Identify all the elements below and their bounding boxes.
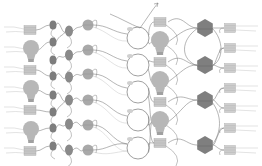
small-oval-node <box>50 108 57 117</box>
circle-knot <box>127 109 133 113</box>
bulb-base <box>157 132 163 135</box>
loop-line <box>51 29 55 38</box>
connector-line <box>36 70 50 76</box>
connector-line <box>149 22 154 35</box>
loop-line <box>51 80 55 89</box>
input-line <box>6 72 24 73</box>
connector-line <box>93 127 127 151</box>
connector-line <box>56 100 66 112</box>
bulb-base <box>157 52 163 55</box>
circle-knot <box>127 137 133 141</box>
connector-line <box>56 144 66 151</box>
mid-oval-node <box>65 72 73 83</box>
connector-line <box>36 146 50 151</box>
right-square-node <box>225 64 236 73</box>
output-line <box>236 110 256 111</box>
connector-line <box>36 25 50 30</box>
loop-line <box>51 99 55 108</box>
square-node <box>24 26 36 35</box>
loop-line <box>166 45 178 65</box>
output-line <box>236 152 256 153</box>
input-line <box>6 32 24 33</box>
connector-line <box>213 88 224 100</box>
mid-oval-node <box>65 119 73 130</box>
connector-line <box>213 48 224 65</box>
output-line <box>236 90 256 91</box>
loop-line <box>220 150 225 155</box>
input-line <box>4 87 25 89</box>
connector-line <box>148 122 152 152</box>
connector-line <box>73 25 83 31</box>
input-line <box>4 67 24 69</box>
connector-line <box>213 65 224 68</box>
connector-line <box>168 65 197 82</box>
small-oval-node <box>50 91 57 100</box>
connector-line <box>93 74 127 88</box>
connector-line <box>93 151 127 154</box>
output-line <box>236 50 256 51</box>
bulb-node <box>151 31 169 55</box>
output-line <box>236 30 256 31</box>
small-oval-node <box>50 38 57 47</box>
loop-line <box>166 85 178 105</box>
input-line <box>4 27 24 29</box>
loop-line <box>166 125 178 145</box>
connector-line <box>56 93 66 101</box>
input-line <box>6 92 25 93</box>
hexagon-node <box>197 136 213 154</box>
output-line <box>236 70 256 71</box>
connector-line <box>213 100 224 108</box>
connector-line <box>73 50 83 55</box>
bulb-node <box>23 121 39 143</box>
loop-line <box>51 46 55 55</box>
connector-line <box>93 102 127 123</box>
loop-line <box>185 28 199 66</box>
right-square-node <box>225 146 236 155</box>
connector-line <box>168 97 197 102</box>
connector-line <box>168 28 197 42</box>
circle-knot <box>127 27 133 31</box>
bulb-node <box>151 71 169 95</box>
mid-oval-node <box>65 50 73 61</box>
circle-knot <box>127 54 133 58</box>
loop-line <box>67 60 72 72</box>
square-node <box>24 66 36 75</box>
diagram-nodes <box>23 18 236 160</box>
mid-oval-node <box>65 145 73 156</box>
loop-line <box>166 146 178 166</box>
small-oval-node <box>50 142 57 151</box>
connector-line <box>149 61 154 62</box>
right-square-node <box>225 24 236 33</box>
network-diagram <box>0 0 262 166</box>
connector-line <box>56 23 66 32</box>
square-node <box>154 139 166 148</box>
connector-line <box>73 148 83 151</box>
right-square-node <box>225 104 236 113</box>
mid-oval-node <box>65 95 73 106</box>
connector-line <box>93 25 127 34</box>
loop-line <box>67 36 72 48</box>
bulb-glass <box>23 80 39 96</box>
square-node <box>154 98 166 107</box>
input-line <box>4 148 24 150</box>
loop-line <box>67 129 72 141</box>
circle-knot <box>127 81 133 85</box>
small-oval-node <box>50 124 57 133</box>
square-node <box>24 106 36 115</box>
bulb-glass <box>151 71 169 89</box>
connector-line <box>73 122 83 126</box>
connector-line <box>213 145 224 150</box>
loop-line <box>51 150 55 159</box>
bulb-glass <box>23 121 39 137</box>
right-square-node <box>225 124 236 133</box>
connector-line <box>149 89 154 102</box>
bulb-base <box>28 59 34 62</box>
input-line <box>6 153 24 154</box>
loop-line <box>220 108 225 113</box>
hexagon-node <box>197 19 213 37</box>
connector-line <box>93 125 127 144</box>
bulb-base <box>28 140 34 143</box>
output-line <box>236 130 256 131</box>
bulb-node <box>23 80 39 102</box>
loop-line <box>67 155 72 166</box>
